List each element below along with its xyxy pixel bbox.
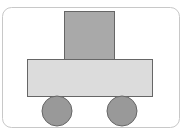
body-rectangle (28, 60, 153, 97)
vehicle-diagram (0, 0, 188, 132)
wheel-left (42, 96, 72, 126)
cabin-square (65, 12, 115, 60)
wheel-right (107, 96, 137, 126)
diagram-canvas (0, 0, 188, 132)
